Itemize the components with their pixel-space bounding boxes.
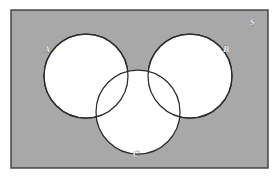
universal-set-label: S [249, 17, 254, 27]
set-a-label: A [43, 44, 50, 54]
set-c-label: C [133, 149, 140, 159]
set-b-label: B [222, 44, 229, 54]
venn-diagram-figure: S A B C [0, 0, 277, 179]
venn-diagram-canvas: S A B C [0, 0, 277, 179]
